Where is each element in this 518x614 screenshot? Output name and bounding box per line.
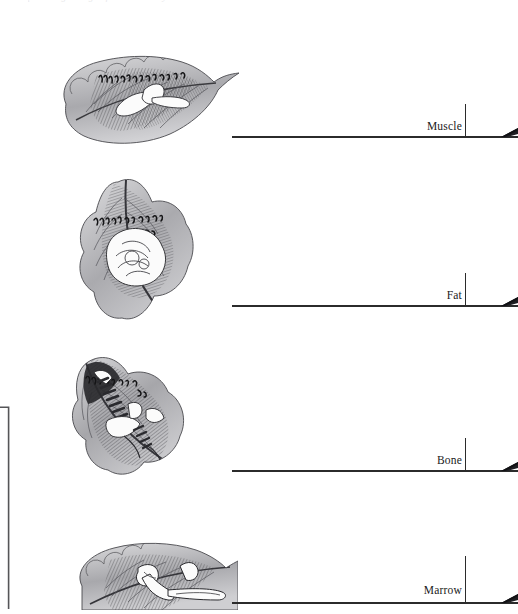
row-wedge-icon-marrow: [489, 594, 518, 603]
row-tick-fat: [465, 273, 466, 307]
row-label-fat: Fat: [447, 289, 462, 302]
fat-leaf-illustration: [62, 172, 237, 332]
row-label-muscle: Muscle: [427, 120, 462, 133]
measure-row-bone: Bone: [0, 432, 518, 472]
plate-bone: [58, 348, 236, 496]
row-rule-marrow: [232, 602, 518, 604]
row-wedge-icon-muscle: [489, 128, 518, 137]
measure-row-fat: Fat: [0, 267, 518, 307]
row-rule-fat: [232, 305, 518, 307]
row-tick-muscle: [465, 104, 466, 138]
row-label-marrow: Marrow: [424, 584, 462, 597]
row-label-bone: Bone: [437, 454, 462, 467]
row-tick-marrow: [465, 556, 466, 602]
measure-row-marrow: Marrow: [0, 562, 518, 614]
row-wedge-icon-fat: [489, 297, 518, 306]
row-wedge-icon-bone: [489, 462, 518, 471]
row-tick-bone: [465, 438, 466, 472]
plate-fat: [62, 172, 237, 332]
bone-leaf-illustration: [58, 348, 236, 496]
top-clipped-caption: plate engravings of the tissue layers: [28, 0, 328, 2]
row-rule-bone: [232, 470, 518, 472]
measure-row-muscle: Muscle: [0, 98, 518, 138]
row-rule-muscle: [232, 136, 518, 138]
